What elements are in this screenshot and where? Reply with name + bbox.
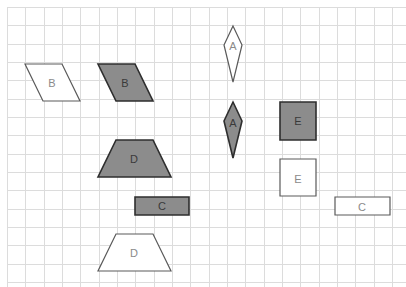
grid	[7, 7, 406, 287]
shape-parallelogram-filled-b: B	[98, 64, 153, 101]
shape-trapezoid-outline-d: D	[98, 234, 171, 271]
shape-label: D	[130, 153, 138, 165]
kite-polygon	[224, 102, 242, 158]
shape-kite-filled-a: A	[224, 102, 242, 158]
shape-label: D	[130, 247, 138, 259]
shape-label: C	[358, 201, 366, 213]
shape-parallelogram-outline-b: B	[25, 64, 80, 101]
shape-trapezoid-filled-d: D	[98, 140, 171, 177]
shape-label: A	[229, 40, 237, 52]
shape-square-outline-e: E	[280, 159, 316, 196]
shape-label: E	[294, 115, 301, 127]
shape-square-filled-e: E	[280, 102, 316, 140]
shape-label: C	[158, 200, 166, 212]
shape-rectangle-filled-c: C	[135, 197, 189, 215]
shape-kite-outline-a: A	[224, 26, 242, 82]
shape-label: E	[294, 173, 301, 185]
shape-label: A	[229, 117, 237, 129]
shape-label: B	[48, 77, 55, 89]
shape-grid-diagram: BBAAEEDCCD	[0, 0, 406, 287]
kite-polygon	[224, 26, 242, 82]
shape-rectangle-outline-c: C	[335, 197, 390, 215]
shape-label: B	[121, 77, 128, 89]
